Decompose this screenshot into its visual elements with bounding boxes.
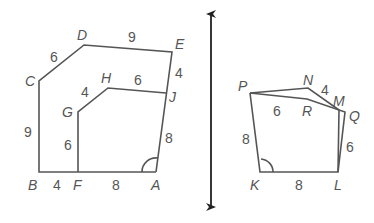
vertex-label-N: N	[303, 72, 314, 88]
reflection-diagram: 6 9 4 4 6 8 9 6 4 8 A B C D E F G H J 4 …	[0, 0, 374, 223]
inner-outline	[78, 88, 166, 172]
side-label-PR: 6	[273, 103, 281, 119]
vertex-label-B: B	[28, 177, 37, 193]
side-label-EJ: 4	[175, 65, 183, 81]
side-label-KL: 8	[295, 177, 303, 193]
vertex-label-F: F	[73, 177, 83, 193]
vertex-label-D: D	[77, 27, 87, 43]
vertex-label-R: R	[302, 103, 312, 119]
side-label-FA: 8	[112, 177, 120, 193]
vertex-label-P: P	[238, 78, 248, 94]
side-label-GH: 4	[81, 84, 89, 100]
side-label-QL: 6	[346, 139, 354, 155]
vertex-label-K: K	[250, 177, 260, 193]
vertex-label-H: H	[101, 70, 112, 86]
side-label-FG: 6	[64, 137, 72, 153]
left-figure: 6 9 4 4 6 8 9 6 4 8 A B C D E F G H J	[24, 27, 185, 193]
right-figure: 4 6 6 8 8 K L M N P Q R	[238, 72, 360, 193]
outer-outline	[39, 45, 172, 172]
vertex-label-A: A	[150, 177, 160, 193]
side-label-CD: 6	[50, 49, 58, 65]
angle-mark-K	[261, 159, 273, 172]
side-label-HJ: 6	[134, 72, 142, 88]
vertex-label-J: J	[168, 89, 177, 105]
side-label-JA: 8	[165, 130, 173, 146]
side-label-DE: 9	[128, 29, 136, 45]
side-label-BF: 4	[53, 177, 61, 193]
side-label-PK: 8	[242, 131, 250, 147]
vertex-label-C: C	[25, 73, 36, 89]
vertex-label-G: G	[62, 104, 73, 120]
side-label-NM: 4	[321, 82, 329, 98]
vertex-label-E: E	[175, 36, 185, 52]
side-label-BC: 9	[24, 124, 32, 140]
vertex-label-M: M	[333, 93, 345, 109]
vertex-label-L: L	[334, 177, 342, 193]
vertex-label-Q: Q	[349, 108, 360, 124]
